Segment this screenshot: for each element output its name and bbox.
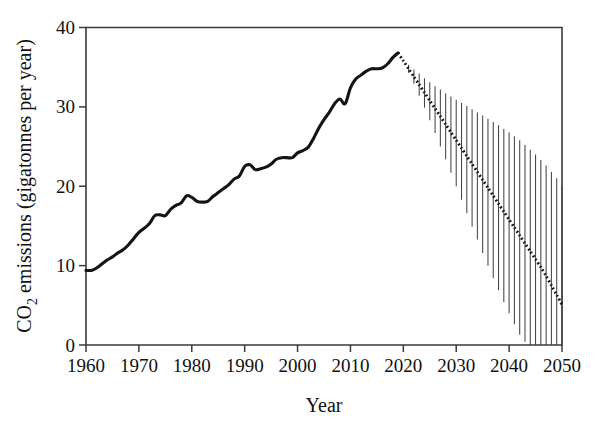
x-tick-label: 2000 — [279, 355, 317, 376]
projected-emissions-line — [398, 53, 562, 305]
x-tick-label: 2040 — [490, 355, 528, 376]
x-tick-label: 1980 — [173, 355, 211, 376]
axis-frame — [86, 28, 562, 346]
x-tick-label: 2030 — [437, 355, 475, 376]
x-tick-label: 1960 — [67, 355, 105, 376]
y-tick-label: 10 — [56, 255, 75, 276]
x-tick-label: 2010 — [331, 355, 369, 376]
x-axis-ticks: 1960197019801990200020102020203020402050 — [67, 345, 581, 376]
y-tick-label: 0 — [66, 335, 76, 356]
co2-emissions-chart: 010203040 196019701980199020002010202020… — [0, 0, 605, 422]
uncertainty-error-bars — [409, 65, 562, 345]
y-tick-label: 20 — [56, 176, 75, 197]
y-axis-title: CO2 emissions (gigatonnes per year) — [13, 39, 40, 333]
x-tick-label: 1970 — [120, 355, 158, 376]
historical-emissions-line — [86, 53, 398, 271]
x-tick-label: 2020 — [384, 355, 422, 376]
x-axis-title: Year — [306, 394, 343, 416]
y-tick-label: 40 — [56, 17, 75, 38]
chart-figure: 010203040 196019701980199020002010202020… — [0, 0, 605, 422]
x-tick-label: 1990 — [226, 355, 264, 376]
y-axis-ticks: 010203040 — [56, 17, 86, 356]
x-tick-label: 2050 — [543, 355, 581, 376]
plot-frame — [86, 28, 562, 346]
y-tick-label: 30 — [56, 96, 75, 117]
